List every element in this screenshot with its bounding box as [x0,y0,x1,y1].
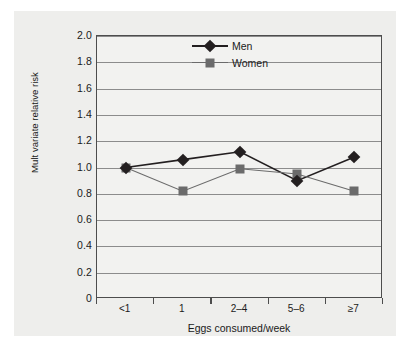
y-axis-tick-label: 1.4 [50,108,92,120]
chart-legend: MenWomen [190,37,300,71]
legend-item-men[interactable]: Men [190,37,300,54]
x-axis-tick-label: ≥7 [323,303,383,314]
y-axis-tick-labels: 00.20.40.60.81.01.21.41.61.82.0 [42,35,92,298]
y-axis-tick-label: 0.6 [50,213,92,225]
figure-canvas: 00.20.40.60.81.01.21.41.61.82.0 Mult var… [14,11,396,336]
x-axis-tick-label: 5–6 [266,303,326,314]
y-axis-tick-label: 0.8 [50,187,92,199]
y-axis-tick-label: 1.8 [50,55,92,67]
data-point-women-4 [350,187,359,196]
y-axis-tick-label: 0.2 [50,266,92,278]
legend-symbol-square-icon [190,56,230,70]
x-axis-tick-label: <1 [95,303,155,314]
y-axis-tick-label: 0 [50,292,92,304]
y-axis-tick-label: 1.6 [50,82,92,94]
y-axis-tick-label: 2.0 [50,29,92,41]
y-axis-title: Mult variate relative risk [29,43,40,203]
figure-inner: 00.20.40.60.81.01.21.41.61.82.0 Mult var… [14,11,396,336]
legend-marker [206,58,215,67]
y-axis-tick-label: 0.4 [50,239,92,251]
data-point-women-2 [236,164,245,173]
x-axis-tick-label: 1 [152,303,212,314]
plot-area [96,35,382,298]
x-axis-title: Eggs consumed/week [96,322,382,334]
data-point-women-1 [178,187,187,196]
legend-label: Women [232,57,268,69]
legend-symbol-diamond-icon [190,39,230,53]
x-axis-tick-label: 2–4 [209,303,269,314]
x-axis-tick-labels: <112–45–6≥7 [96,303,382,319]
y-axis-tick-label: 1.2 [50,134,92,146]
legend-item-women[interactable]: Women [190,54,300,71]
y-axis-tick-label: 1.0 [50,161,92,173]
legend-label: Men [232,40,252,52]
legend-marker [204,39,217,52]
